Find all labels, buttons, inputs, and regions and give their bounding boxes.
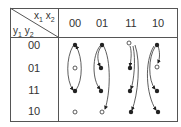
unstable-state-circle <box>155 65 159 69</box>
column-10-transitions <box>147 43 160 114</box>
stable-state-dot <box>155 43 159 47</box>
transition-diagram <box>0 0 181 127</box>
unstable-state-circle <box>73 66 77 70</box>
stable-state-dot <box>129 110 133 114</box>
stable-state-dot <box>99 89 103 93</box>
stable-state-dot <box>99 66 103 70</box>
stable-state-dot <box>128 89 132 93</box>
stable-state-dot <box>73 89 77 93</box>
column-00-transitions <box>68 43 82 114</box>
unstable-state-circle <box>100 110 104 114</box>
stable-state-dot <box>100 43 104 47</box>
column-11-transitions <box>127 41 138 114</box>
stable-state-dot <box>73 43 77 47</box>
unstable-state-circle <box>73 110 77 114</box>
stable-state-dot <box>155 89 159 93</box>
column-01-transitions <box>94 43 109 114</box>
unstable-state-circle <box>127 41 131 45</box>
stable-state-dot <box>128 66 132 70</box>
stable-state-dot <box>156 110 160 114</box>
